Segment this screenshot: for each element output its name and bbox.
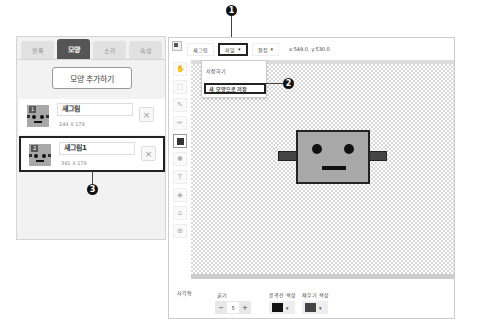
zoom-tool[interactable]: ⊕ [173, 224, 187, 238]
chevron-down-icon: ▾ [238, 46, 241, 52]
chevron-down-icon: ▾ [271, 46, 274, 52]
robot-eye [344, 144, 354, 154]
robot-mouth [36, 160, 44, 162]
tab-sounds[interactable]: 소리 [93, 41, 126, 59]
robot-arm [48, 154, 51, 157]
outline-color-label: 윤곽선 색상 [269, 291, 296, 298]
robot-arm [27, 115, 30, 118]
robot-left-arm [278, 151, 297, 161]
robot-eye [312, 144, 322, 154]
close-icon: × [143, 110, 151, 120]
callout-3: 3 [87, 184, 98, 195]
cursor-coordinates: x:549.0, y:530.0 [289, 46, 330, 52]
decrease-button[interactable]: − [215, 301, 227, 314]
robot-eye [40, 115, 44, 119]
file-menu-button[interactable]: 파일 ▾ [218, 43, 248, 56]
rectangle-icon [177, 138, 184, 145]
brush-tool[interactable]: ✏ [173, 116, 187, 130]
fill-color-picker[interactable]: ▾ [302, 301, 328, 314]
increase-button[interactable]: + [239, 301, 251, 314]
outline-color-picker[interactable]: ▾ [269, 301, 295, 314]
paint-editor: 새그림 파일 ▾ 편집 ▾ x:549.0, y:530.0 ✋ ⬚ ✎ ✏ ✺… [168, 37, 455, 319]
shape-panel: 블록 모양 소리 속성 모양 추가하기 1 새그림 244 X 179 × 2 … [16, 36, 166, 240]
fill-tool[interactable]: ◈ [173, 188, 187, 202]
shape-name-input[interactable]: 새그림1 [59, 142, 135, 155]
tab-shapes[interactable]: 모양 [57, 39, 90, 59]
menu-item-save[interactable]: 저장하기 [206, 67, 226, 74]
thickness-value[interactable]: 5 [227, 301, 239, 314]
fullscreen-icon[interactable] [172, 41, 182, 51]
tab-blocks[interactable]: 블록 [21, 41, 54, 59]
callout-line [92, 171, 93, 185]
delete-shape-button[interactable]: × [141, 146, 156, 161]
hand-tool[interactable]: ✋ [173, 62, 187, 76]
shape-index: 2 [31, 145, 38, 152]
robot-right-arm [368, 151, 387, 161]
fill-color-label: 채우기 색상 [302, 291, 329, 298]
callout-2: 2 [283, 78, 294, 89]
menu-item-save-as-new-shape[interactable]: 새 모양으로 저장 [204, 83, 266, 94]
editor-toolbar: 새그림 파일 ▾ 편집 ▾ x:549.0, y:530.0 [187, 38, 454, 60]
fill-color-swatch [305, 303, 316, 312]
properties-bar: 사각형 굵기 − 5 + 윤곽선 색상 ▾ 채우기 색상 ▾ [169, 279, 454, 318]
robot-eye [32, 115, 36, 119]
callout-1: 1 [226, 5, 237, 16]
shape-thumbnail: 2 [29, 144, 51, 166]
close-icon: × [145, 149, 153, 159]
robot-drawing[interactable] [296, 130, 370, 184]
chevron-down-icon: ▾ [286, 305, 289, 311]
add-shape-button[interactable]: 모양 추가하기 [52, 67, 132, 89]
outline-color-swatch [272, 303, 283, 312]
robot-eye [34, 154, 38, 158]
divider [17, 59, 165, 60]
robot-eye [42, 154, 46, 158]
tab-properties[interactable]: 속성 [129, 41, 162, 59]
edit-menu-button[interactable]: 편집 ▾ [252, 43, 280, 56]
shape-list-item-selected[interactable]: 2 새그림1 341 X 179 × [19, 136, 165, 172]
shape-type-label: 사각형 [177, 289, 192, 296]
eraser-tool[interactable]: ⌂ [173, 206, 187, 220]
file-dropdown-menu: 저장하기 새 모양으로 저장 [201, 60, 267, 98]
robot-mouth [34, 121, 42, 123]
shape-thumbnail: 1 [27, 105, 49, 127]
shape-list-item[interactable]: 1 새그림 244 X 179 × [19, 99, 165, 135]
pen-tool[interactable]: ✎ [173, 98, 187, 112]
select-tool[interactable]: ⬚ [173, 80, 187, 94]
circle-tool[interactable]: ✺ [173, 152, 187, 166]
robot-arm [29, 154, 32, 157]
text-tool[interactable]: T [173, 170, 187, 184]
new-picture-button[interactable]: 새그림 [187, 43, 214, 56]
shape-index: 1 [29, 106, 36, 113]
delete-shape-button[interactable]: × [139, 107, 154, 122]
chevron-down-icon: ▾ [319, 305, 322, 311]
thickness-label: 굵기 [217, 291, 227, 298]
thickness-stepper: − 5 + [215, 301, 251, 314]
tab-bar: 블록 모양 소리 속성 [21, 41, 162, 59]
callout-line [231, 16, 232, 38]
rectangle-tool[interactable] [173, 134, 187, 148]
tool-palette: ✋ ⬚ ✎ ✏ ✺ T ◈ ⌂ ⊕ [171, 62, 189, 242]
callout-line [266, 83, 284, 84]
robot-mouth [322, 166, 346, 170]
shape-size: 341 X 179 [61, 160, 87, 166]
shape-name-input[interactable]: 새그림 [57, 103, 133, 116]
robot-arm [46, 115, 49, 118]
shape-size: 244 X 179 [59, 121, 85, 127]
